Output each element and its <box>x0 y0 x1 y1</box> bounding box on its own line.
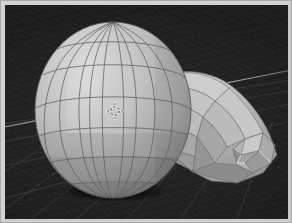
screenshot-root <box>0 0 292 223</box>
viewport-3d[interactable] <box>5 5 288 219</box>
3d-cursor-icon[interactable] <box>106 102 124 120</box>
cursor-layer[interactable] <box>5 5 288 219</box>
